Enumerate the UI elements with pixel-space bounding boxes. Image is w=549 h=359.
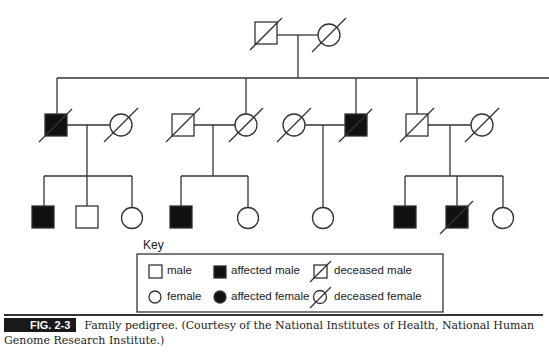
gen1-deceased-male [255, 22, 277, 44]
caption-text: Family pedigree. (Courtesy of the Nation… [4, 319, 534, 347]
figure-label: FIG. 2-3 [4, 318, 76, 332]
key-label-affected-female: affected female [231, 290, 309, 302]
key-label-affected-male: affected male [231, 264, 300, 276]
key-title: Key [143, 238, 164, 252]
caption-divider [4, 314, 543, 316]
key-label-deceased-female: deceased female [334, 290, 422, 302]
figure-caption: FIG. 2-3Family pedigree. (Courtesy of th… [4, 318, 544, 348]
key-label-deceased-male: deceased male [334, 264, 412, 276]
key-label-female: female [167, 290, 202, 302]
key-label-male: male [167, 264, 192, 276]
pedigree-chart [0, 0, 549, 359]
key-box [137, 254, 443, 312]
